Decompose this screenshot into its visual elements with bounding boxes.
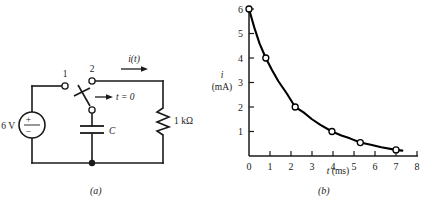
circuit-panel: + − 6 V t = 0 1 2: [0, 0, 210, 204]
data-point-marker: [246, 6, 252, 12]
chart-tick-labels: 012345678123456: [238, 4, 420, 172]
resistor-zigzag: [157, 108, 169, 135]
x-tick-label: 3: [310, 161, 315, 172]
discharge-current-chart: 012345678123456 t (ms) i (mA): [210, 0, 442, 180]
voltage-source: + − 6 V: [1, 112, 45, 138]
junction-dot: [89, 160, 95, 166]
x-tick-label: 8: [415, 161, 420, 172]
current-label: i(t): [128, 54, 140, 65]
y-tick-label: 3: [238, 77, 243, 88]
switch-terminal-2-node: [89, 78, 95, 84]
panel-a-caption: (a): [90, 185, 102, 196]
current-indicator: i(t): [121, 54, 148, 72]
y-tick-label: 4: [238, 53, 243, 64]
y-tick-label: 1: [238, 126, 243, 137]
chart-panel: 012345678123456 t (ms) i (mA): [210, 0, 442, 204]
y-axis-label-unit: (mA): [212, 82, 233, 93]
chart-curve: [249, 9, 402, 151]
circuit-wires: [32, 81, 163, 163]
capacitor-label: C: [109, 126, 116, 136]
y-tick-label: 2: [238, 102, 243, 113]
chart-data-markers: [246, 6, 399, 153]
switch-terminal-1-node: [62, 83, 68, 89]
y-tick-label: 6: [238, 4, 243, 15]
circuit-schematic-svg: + − 6 V t = 0 1 2: [0, 0, 210, 180]
x-tick-label: 7: [394, 161, 399, 172]
y-axis-label-symbol: i: [221, 70, 224, 80]
switch-assembly: t = 0 1 2: [62, 64, 135, 113]
data-point-marker: [329, 129, 335, 135]
x-tick-label: 6: [373, 161, 378, 172]
data-point-marker: [357, 140, 363, 146]
data-point-marker: [393, 147, 399, 153]
y-tick-label: 5: [238, 28, 243, 39]
x-tick-label: 1: [268, 161, 273, 172]
resistor-label: 1 kΩ: [174, 116, 193, 126]
curve-path: [249, 9, 402, 151]
terminal-1-label: 1: [63, 69, 68, 79]
resistor: 1 kΩ: [157, 108, 193, 135]
current-arrow-head: [141, 66, 148, 72]
panel-b-caption: (b): [318, 185, 330, 196]
source-value-label: 6 V: [1, 121, 15, 131]
switch-crossbar: [74, 88, 90, 96]
x-tick-label: 2: [289, 161, 294, 172]
switch-arrow-head: [106, 94, 113, 99]
source-minus-sign: −: [26, 127, 31, 137]
x-tick-label: 5: [352, 161, 357, 172]
switch-common-node: [89, 107, 95, 113]
figure-root: + − 6 V t = 0 1 2: [0, 0, 442, 204]
x-axis-label: t (ms): [327, 166, 349, 177]
x-tick-label: 0: [247, 161, 252, 172]
switch-time-label: t = 0: [116, 92, 135, 102]
data-point-marker: [292, 104, 298, 110]
data-point-marker: [263, 55, 269, 61]
capacitor: C: [80, 126, 116, 136]
terminal-2-label: 2: [90, 64, 95, 74]
source-plus-sign: +: [26, 115, 31, 125]
